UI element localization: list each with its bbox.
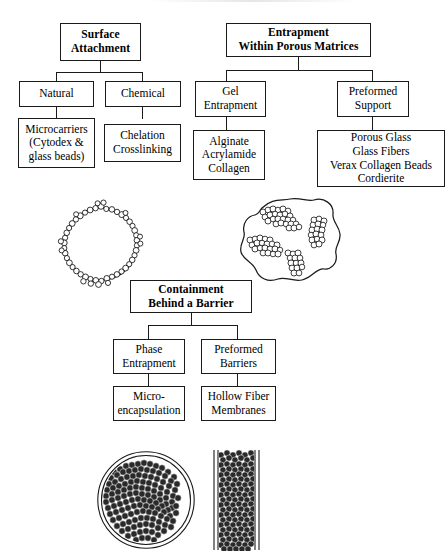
microcapsule-illustration xyxy=(96,450,196,550)
hollow-fiber-illustration xyxy=(211,449,269,551)
node-preformed-support: Preformed Support xyxy=(337,81,409,117)
leaf-chelation-crosslinking-label: Chelation Crosslinking xyxy=(113,129,172,156)
connector-ent-trunk xyxy=(298,57,299,71)
leaf-chelation-crosslinking: Chelation Crosslinking xyxy=(104,124,181,162)
connector-sa-spread xyxy=(56,72,143,73)
figure-canvas: Surface Attachment Natural Chemical Micr… xyxy=(0,0,447,560)
node-chemical-label: Chemical xyxy=(121,87,165,101)
connector-preformed-to-leaf xyxy=(372,117,373,131)
leaf-hollow-fiber-membranes: Hollow Fiber Membranes xyxy=(201,386,276,421)
node-preformed-support-label: Preformed Support xyxy=(349,85,398,112)
connector-cont-spread xyxy=(148,325,238,326)
node-surface-attachment: Surface Attachment xyxy=(60,23,141,61)
node-phase-entrapment: Phase Entrapment xyxy=(113,339,185,374)
node-preformed-barriers: Preformed Barriers xyxy=(201,339,276,374)
leaf-microencapsulation-label: Micro- encapsulation xyxy=(117,390,180,417)
node-phase-entrapment-label: Phase Entrapment xyxy=(122,343,176,370)
leaf-microencapsulation: Micro- encapsulation xyxy=(113,386,185,421)
scan-artifact xyxy=(148,0,358,2)
node-surface-attachment-label: Surface Attachment xyxy=(71,28,130,55)
connector-cont-drop-phase xyxy=(148,325,149,340)
leaf-preformed-materials-label: Porous Glass Glass Fibers Verax Collagen… xyxy=(330,131,432,185)
leaf-hollow-fiber-membranes-label: Hollow Fiber Membranes xyxy=(208,390,270,417)
node-natural-label: Natural xyxy=(39,87,73,101)
connector-ent-spread xyxy=(226,70,373,71)
node-entrapment: Entrapment Within Porous Matrices xyxy=(226,23,371,57)
leaf-gel-materials: Alginate Acrylamide Collagen xyxy=(193,130,265,180)
leaf-gel-materials-label: Alginate Acrylamide Collagen xyxy=(202,135,256,176)
node-containment-label: Containment Behind a Barrier xyxy=(148,283,233,310)
porous-matrix-illustration xyxy=(232,196,348,290)
connector-chemical-to-leaf xyxy=(142,107,143,119)
node-containment: Containment Behind a Barrier xyxy=(130,280,252,313)
leaf-microcarriers-label: Microcarriers (Cytodex & glass beads) xyxy=(25,123,88,164)
node-gel-entrapment-label: Gel Entrapment xyxy=(204,85,258,112)
node-chemical: Chemical xyxy=(105,81,181,107)
node-preformed-barriers-label: Preformed Barriers xyxy=(214,343,263,370)
node-natural: Natural xyxy=(19,81,94,107)
connector-gel-to-leaf xyxy=(226,117,227,131)
node-entrapment-label: Entrapment Within Porous Matrices xyxy=(239,26,359,53)
leaf-preformed-materials: Porous Glass Glass Fibers Verax Collagen… xyxy=(317,130,445,187)
leaf-microcarriers: Microcarriers (Cytodex & glass beads) xyxy=(18,118,95,168)
microcarrier-bead-illustration xyxy=(54,198,150,290)
node-gel-entrapment: Gel Entrapment xyxy=(195,81,266,117)
connector-cont-drop-preformed xyxy=(237,325,238,340)
